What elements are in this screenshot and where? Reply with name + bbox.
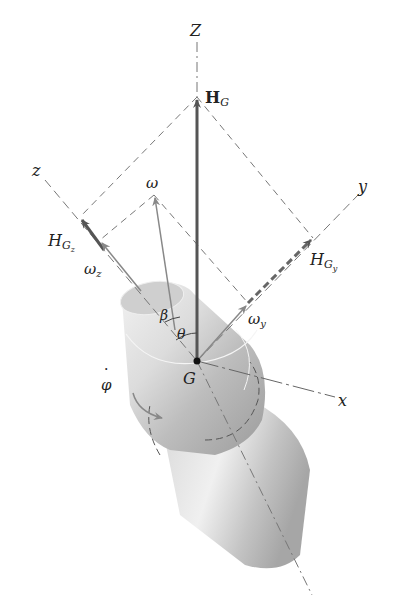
beta-label: β [159, 307, 168, 323]
omegaz-vector [102, 243, 141, 291]
omegay-label: ωy [248, 310, 266, 329]
diagram-canvas: Z HG z y x ω HGz ωz HGy ωy β θ G φ · [0, 0, 400, 607]
HG-to-HGy-dashed [197, 97, 313, 238]
z-axis-label: z [31, 161, 41, 180]
y-axis-line [197, 193, 360, 361]
omega-to-omegaz-dashed [100, 195, 154, 240]
axisymmetric-body [118, 277, 310, 569]
phi-dot-dot-mark: · [104, 361, 108, 377]
theta-label: θ [177, 326, 186, 342]
HG-label: HG [205, 88, 229, 109]
omegaz-label: ωz [84, 260, 102, 279]
center-of-mass-point [194, 358, 201, 365]
HGy-label: HGy [309, 250, 338, 273]
HGz-label: HGz [47, 231, 76, 254]
HG-to-HGz-dashed [80, 97, 197, 217]
x-axis-label: x [338, 391, 347, 410]
phi-dot-label: φ [101, 376, 112, 394]
y-axis-label: y [357, 177, 368, 196]
Z-axis-label: Z [189, 21, 202, 40]
HGz-vector [82, 220, 104, 250]
HGy-vector [248, 240, 311, 303]
z-axis-line-upper [45, 180, 197, 361]
omega-label: ω [146, 174, 158, 192]
G-label: G [183, 369, 196, 388]
